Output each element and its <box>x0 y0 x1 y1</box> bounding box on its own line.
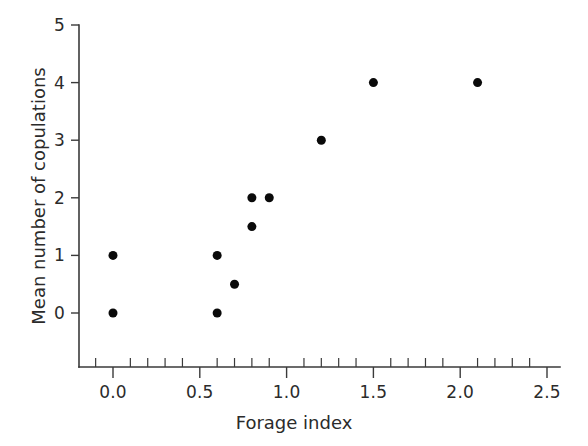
data-point <box>109 309 118 318</box>
data-point <box>247 193 256 202</box>
data-point <box>213 251 222 260</box>
x-axis-tick-label: 2.0 <box>446 382 474 402</box>
y-axis-title: Mean number of copulations <box>28 67 49 324</box>
ticks-group <box>71 25 547 378</box>
x-axis-tick-label: 1.0 <box>273 382 301 402</box>
data-point <box>265 193 274 202</box>
data-points-group <box>109 78 483 317</box>
data-point <box>213 309 222 318</box>
data-point <box>317 136 326 145</box>
data-point <box>369 78 378 87</box>
x-axis-title: Forage index <box>236 412 353 433</box>
x-axis-tick-label: 1.5 <box>360 382 388 402</box>
y-axis-tick-label: 5 <box>0 15 65 35</box>
data-point <box>230 280 239 289</box>
data-point <box>109 251 118 260</box>
data-point <box>473 78 482 87</box>
x-axis-tick-label: 0.0 <box>99 382 127 402</box>
data-point <box>247 222 256 231</box>
x-axis-tick-label: 0.5 <box>186 382 214 402</box>
scatter-plot-figure: 0.00.51.01.52.02.5 012345 Forage index M… <box>0 0 588 446</box>
x-axis-tick-label: 2.5 <box>533 382 561 402</box>
plot-canvas <box>0 0 588 446</box>
axes-group <box>79 25 560 367</box>
